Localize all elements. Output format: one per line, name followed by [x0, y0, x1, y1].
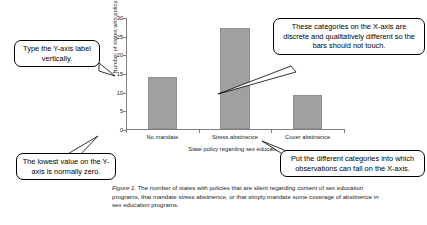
callout-lowest-value: The lowest value on the Y-axis is normal…: [16, 153, 116, 180]
callout-y-axis-label: Type the Y-axis label vertically.: [14, 40, 100, 67]
leader-xcategories: [218, 66, 296, 94]
callout-put-categories: Put the different categories into which …: [280, 150, 425, 177]
annotated-figure: Number of states with policy 05101520253…: [0, 0, 427, 225]
leader-yaxis: [99, 63, 115, 76]
callout-x-categories: These categories on the X-axis are discr…: [273, 18, 425, 55]
